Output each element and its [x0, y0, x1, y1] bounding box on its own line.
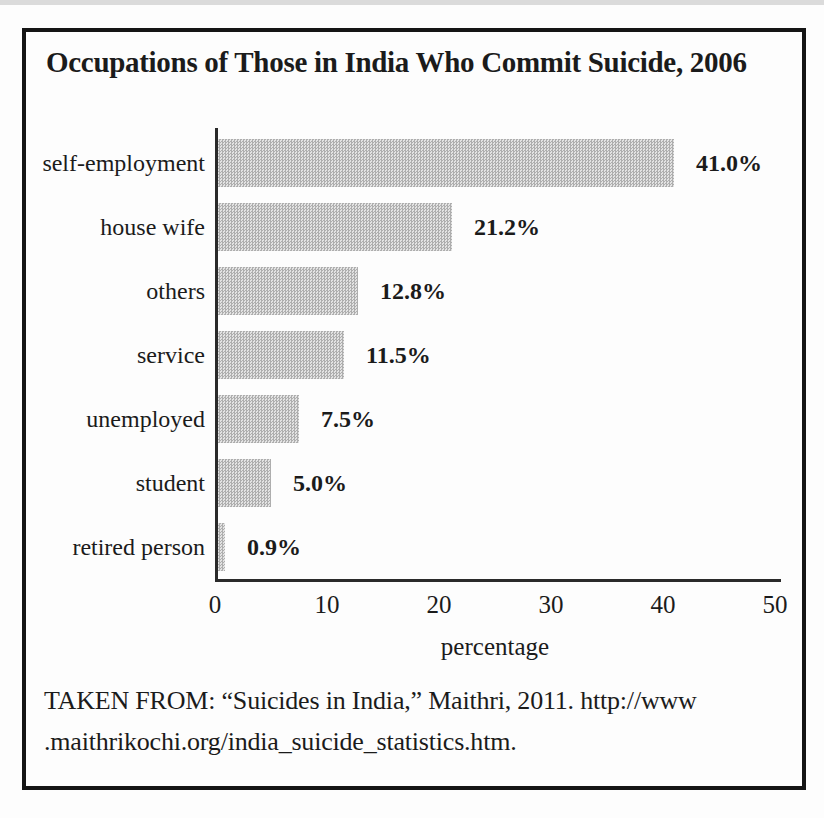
x-axis-ticks: 01020304050	[215, 591, 775, 625]
bar-row: service11.5%	[26, 323, 802, 387]
y-axis-line	[215, 128, 218, 581]
bar-row: self-employment41.0%	[26, 131, 802, 195]
x-tick-label: 0	[209, 591, 222, 619]
scan-edge-artifact	[0, 0, 824, 5]
value-label: 21.2%	[474, 214, 540, 241]
value-label: 0.9%	[247, 534, 301, 561]
source-citation-line2: .maithrikochi.org/india_suicide_statisti…	[44, 727, 517, 756]
x-tick-label: 10	[315, 591, 340, 619]
figure-frame: Occupations of Those in India Who Commit…	[22, 28, 806, 790]
value-label: 12.8%	[380, 278, 446, 305]
value-label: 5.0%	[293, 470, 347, 497]
bar	[215, 203, 452, 251]
bar-rows: self-employment41.0%house wife21.2%other…	[26, 131, 802, 579]
bar	[215, 395, 299, 443]
bar	[215, 459, 271, 507]
scanned-figure-page: Occupations of Those in India Who Commit…	[0, 0, 824, 818]
x-tick-label: 30	[539, 591, 564, 619]
bar-row: retired person0.9%	[26, 515, 802, 579]
bar	[215, 331, 344, 379]
bar-chart: self-employment41.0%house wife21.2%other…	[26, 131, 802, 691]
value-label: 41.0%	[696, 150, 762, 177]
category-label: unemployed	[26, 406, 215, 433]
x-tick-label: 50	[763, 591, 788, 619]
category-label: student	[26, 470, 215, 497]
category-label: service	[26, 342, 215, 369]
value-label: 11.5%	[366, 342, 431, 369]
category-label: others	[26, 278, 215, 305]
chart-title: Occupations of Those in India Who Commit…	[46, 46, 786, 79]
bar-row: unemployed7.5%	[26, 387, 802, 451]
bar-row: others12.8%	[26, 259, 802, 323]
category-label: house wife	[26, 214, 215, 241]
x-axis-label: percentage	[215, 633, 775, 661]
category-label: retired person	[26, 534, 215, 561]
value-label: 7.5%	[321, 406, 375, 433]
source-citation-line1: TAKEN FROM: “Suicides in India,” Maithri…	[44, 686, 697, 715]
bar-row: house wife21.2%	[26, 195, 802, 259]
x-tick-label: 40	[651, 591, 676, 619]
category-label: self-employment	[26, 150, 215, 177]
x-tick-label: 20	[427, 591, 452, 619]
bar	[215, 267, 358, 315]
source-citation: TAKEN FROM: “Suicides in India,” Maithri…	[44, 680, 774, 762]
bar-row: student5.0%	[26, 451, 802, 515]
bar	[215, 139, 674, 187]
x-axis-line	[215, 579, 781, 582]
